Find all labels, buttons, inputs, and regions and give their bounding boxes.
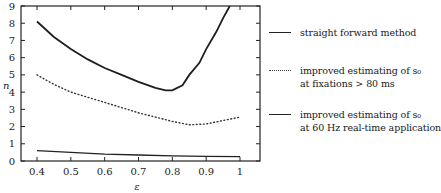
y-axis-label: n xyxy=(3,80,9,91)
x-tick-label: 0.6 xyxy=(97,166,113,177)
x-tick-label: 0.4 xyxy=(29,166,45,177)
y-tick-label: 3 xyxy=(9,104,15,115)
y-tick-label: 5 xyxy=(9,69,15,80)
y-tick-label: 2 xyxy=(9,121,15,132)
x-tick-label: 0.9 xyxy=(198,166,214,177)
y-tick-label: 6 xyxy=(9,52,15,63)
legend-item-straight-forward: straight forward method xyxy=(268,26,416,39)
legend-swatch-solid xyxy=(268,26,292,39)
plot-frame xyxy=(21,6,260,161)
y-tick-label: 4 xyxy=(9,87,15,98)
x-tick-label: 0.7 xyxy=(131,166,147,177)
legend-label: straight forward method xyxy=(300,27,416,38)
legend-label-line2: at fixations > 80 ms xyxy=(300,78,395,89)
legend-item-realtime: improved estimating of s₀ at 60 Hz real-… xyxy=(268,108,441,134)
x-axis-label: ε xyxy=(134,181,139,192)
x-tick-label: 1 xyxy=(237,166,243,177)
x-tick-label: 0.5 xyxy=(63,166,79,177)
legend-swatch-thin xyxy=(268,108,292,121)
y-tick-label: 8 xyxy=(9,18,15,29)
y-tick-label: 9 xyxy=(9,1,15,12)
y-tick-label: 1 xyxy=(9,138,15,149)
series-line-2 xyxy=(37,151,240,157)
plot-area: 01234567890.40.50.60.70.80.91 n ε xyxy=(0,0,268,193)
legend-label-line1: improved estimating of s₀ xyxy=(300,109,421,120)
y-tick-label: 0 xyxy=(9,156,15,167)
y-tick-label: 7 xyxy=(9,35,15,46)
legend-label-line2: at 60 Hz real-time application xyxy=(300,122,441,133)
legend-item-fixations: improved estimating of s₀ at fixations >… xyxy=(268,64,421,90)
x-tick-label: 0.8 xyxy=(164,166,180,177)
legend-label-line1: improved estimating of s₀ xyxy=(300,65,421,76)
series-line-0 xyxy=(37,6,230,90)
legend-swatch-dotted xyxy=(268,64,292,77)
